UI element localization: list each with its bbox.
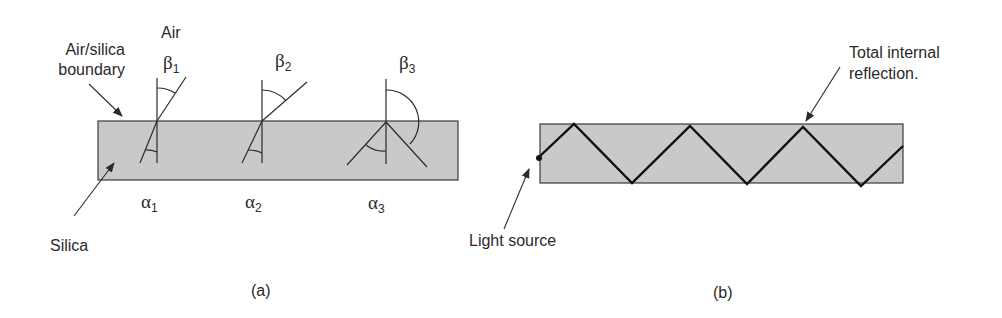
caption-b: (b) — [713, 283, 733, 302]
label-boundary-line2: boundary — [40, 60, 125, 79]
label-silica: Silica — [50, 236, 88, 255]
light-source-dot — [536, 155, 542, 161]
label-alpha-3: α3 — [368, 192, 385, 216]
label-boundary-line1: Air/silica — [40, 40, 125, 59]
label-alpha-2: α2 — [245, 191, 262, 215]
boundary-arrow — [89, 84, 122, 116]
caption-a: (a) — [251, 281, 271, 300]
silica-arrow — [74, 163, 114, 216]
label-beta-3: β3 — [399, 52, 415, 76]
tir-arrow — [806, 67, 840, 121]
light-source-arrow — [504, 169, 529, 229]
label-light-source: Light source — [469, 231, 556, 250]
label-alpha-1: α1 — [141, 191, 158, 215]
label-air: Air — [161, 23, 181, 42]
label-tir-line2: reflection. — [849, 64, 918, 83]
label-tir-line1: Total internal — [849, 43, 940, 62]
label-beta-1: β1 — [163, 52, 179, 76]
label-beta-2: β2 — [275, 50, 291, 74]
